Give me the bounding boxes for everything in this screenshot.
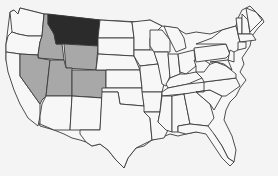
state-arizona[interactable]: [40, 96, 72, 130]
state-nebraska[interactable]: [96, 54, 140, 70]
state-kansas[interactable]: [106, 70, 142, 88]
state-north-dakota[interactable]: [98, 20, 134, 38]
state-colorado[interactable]: [72, 70, 106, 98]
us-map-svg: [0, 0, 278, 176]
us-map: [0, 0, 278, 176]
state-wyoming[interactable]: [64, 44, 98, 70]
state-arkansas[interactable]: [142, 92, 162, 112]
state-south-dakota[interactable]: [98, 38, 134, 56]
state-montana[interactable]: [48, 14, 100, 46]
state-new-mexico[interactable]: [70, 96, 102, 130]
